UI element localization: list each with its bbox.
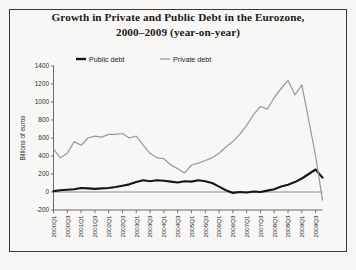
x-axis-tick-label: 2008Q1 [271,215,278,238]
legend-label-private-debt: Private debt [173,55,211,64]
y-axis-tick-label: -200 [36,206,49,213]
series-line-public-debt [54,170,323,193]
x-axis-tick-label: 2005Q1 [188,215,195,238]
x-axis-tick-label: 2004Q1 [160,215,167,238]
x-axis-tick-label: 2002Q1 [105,215,112,238]
y-axis-title: Billions of euros [19,115,26,160]
y-axis-tick-label: 600 [38,134,49,141]
y-axis-tick-label: 1000 [35,98,50,105]
y-axis-tick-label: 200 [38,170,49,177]
y-axis-tick-label: 1400 [35,62,50,69]
x-axis-tick-label: 2009Q3 [312,215,319,238]
y-axis-tick-label: 0 [45,188,49,195]
x-axis-tick-label: 2000Q1 [50,215,57,238]
x-axis-tick-label: 2009Q1 [298,215,305,238]
x-axis-tick-label: 2002Q3 [119,215,126,238]
line-chart-svg: -2000200400600800100012001400Billions of… [0,0,356,270]
x-axis-tick-label: 2007Q3 [257,215,264,238]
x-axis-tick-label: 2006Q3 [229,215,236,238]
x-axis-tick-label: 2005Q3 [202,215,209,238]
legend-label-public-debt: Public debt [89,55,125,64]
plot-area: -2000200400600800100012001400Billions of… [0,0,338,241]
y-axis-tick-label: 800 [38,116,49,123]
y-axis-tick-label: 400 [38,152,49,159]
chart-figure: Growth in Private and Public Debt in the… [0,0,356,270]
x-axis-tick-label: 2004Q3 [174,215,181,238]
y-axis-tick-label: 1200 [35,80,50,87]
x-axis-tick-label: 2008Q3 [284,215,291,238]
x-axis-tick-label: 2006Q1 [215,215,222,238]
x-axis-tick-label: 2001Q1 [77,215,84,238]
x-axis-tick-label: 2003Q1 [133,215,140,238]
x-axis-tick-label: 2000Q3 [64,215,71,238]
x-axis-tick-label: 2007Q1 [243,215,250,238]
x-axis-tick-label: 2001Q3 [91,215,98,238]
x-axis-tick-label: 2003Q3 [146,215,153,238]
